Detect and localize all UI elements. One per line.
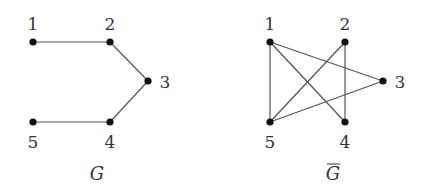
vertex-3 [379,77,386,84]
vertex-4 [341,118,348,125]
vertex-label-4: 4 [340,132,351,152]
graph-g: 12345G [28,14,171,184]
vertex-2 [106,38,113,45]
graph-caption: G [90,163,104,184]
vertex-4 [106,118,113,125]
vertex-label-1: 1 [265,14,276,34]
graph-caption: G [326,163,340,184]
vertex-label-2: 2 [340,14,351,34]
vertex-3 [144,77,151,84]
vertex-5 [29,118,36,125]
vertex-label-5: 5 [265,132,276,152]
vertex-label-3: 3 [160,72,171,92]
vertex-label-2: 2 [105,14,116,34]
edge-3-4 [110,81,148,122]
graph-g-complement: 12345G [265,14,406,184]
edge-3-5 [270,81,383,122]
vertex-1 [29,38,36,45]
vertex-1 [266,38,273,45]
vertex-label-4: 4 [105,132,116,152]
edge-2-3 [110,42,148,81]
graph-diagram: 12345G 12345G [0,0,422,190]
vertex-label-5: 5 [28,132,39,152]
vertex-2 [341,38,348,45]
vertex-label-1: 1 [28,14,39,34]
vertex-label-3: 3 [395,72,406,92]
vertex-5 [266,118,273,125]
